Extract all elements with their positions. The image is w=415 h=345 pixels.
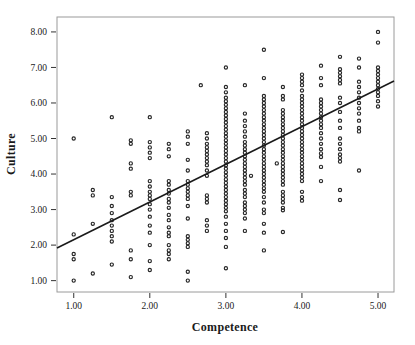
plot-frame xyxy=(57,17,394,292)
data-point xyxy=(281,172,284,175)
data-point xyxy=(338,142,341,145)
data-point xyxy=(167,231,170,234)
data-point xyxy=(205,169,208,172)
data-point xyxy=(167,197,170,200)
data-point xyxy=(376,73,379,76)
data-point xyxy=(148,141,151,144)
data-point xyxy=(129,194,132,197)
data-point xyxy=(129,142,132,145)
data-point xyxy=(376,84,379,87)
data-point xyxy=(167,235,170,238)
data-point xyxy=(281,85,284,88)
data-point xyxy=(205,142,208,145)
data-point xyxy=(224,188,227,191)
data-point xyxy=(262,116,265,119)
x-tick-label: 3.00 xyxy=(218,301,235,311)
data-point xyxy=(243,135,246,138)
data-point xyxy=(281,165,284,168)
data-point xyxy=(319,123,322,126)
data-point xyxy=(338,198,341,201)
data-point xyxy=(338,96,341,99)
data-point xyxy=(224,174,227,177)
data-point xyxy=(224,91,227,94)
data-point xyxy=(300,169,303,172)
data-point xyxy=(338,148,341,151)
data-point xyxy=(167,206,170,209)
data-point xyxy=(224,203,227,206)
data-point xyxy=(357,80,360,83)
data-point xyxy=(281,130,284,133)
data-point xyxy=(281,151,284,154)
data-point xyxy=(224,132,227,135)
data-point xyxy=(224,245,227,248)
data-point xyxy=(129,139,132,142)
data-point xyxy=(357,101,360,104)
data-point xyxy=(357,169,360,172)
y-tick-label: 5.00 xyxy=(30,134,47,144)
data-point xyxy=(376,41,379,44)
data-point xyxy=(262,123,265,126)
data-point xyxy=(262,180,265,183)
data-point xyxy=(205,197,208,200)
data-point xyxy=(262,231,265,234)
data-point xyxy=(357,66,360,69)
data-point xyxy=(224,171,227,174)
data-point xyxy=(205,149,208,152)
data-point xyxy=(357,112,360,115)
data-point xyxy=(186,142,189,145)
data-point xyxy=(262,105,265,108)
data-point xyxy=(186,217,189,220)
data-point xyxy=(167,148,170,151)
data-point xyxy=(319,155,322,158)
data-point xyxy=(224,153,227,156)
data-point xyxy=(186,135,189,138)
data-point xyxy=(224,206,227,209)
data-point xyxy=(319,64,322,67)
data-point xyxy=(110,235,113,238)
data-point xyxy=(224,181,227,184)
y-tick-label: 8.00 xyxy=(30,27,47,37)
data-point xyxy=(262,190,265,193)
data-point xyxy=(338,55,341,58)
data-point xyxy=(281,180,284,183)
data-point xyxy=(281,98,284,101)
data-point xyxy=(148,185,151,188)
data-point xyxy=(319,119,322,122)
data-point xyxy=(224,128,227,131)
data-point xyxy=(281,109,284,112)
data-point xyxy=(148,231,151,234)
data-point xyxy=(300,84,303,87)
data-point xyxy=(281,197,284,200)
data-point xyxy=(319,152,322,155)
y-axis-title: Culture xyxy=(4,133,18,175)
data-point xyxy=(205,164,208,167)
data-point xyxy=(262,196,265,199)
data-point xyxy=(338,119,341,122)
data-point xyxy=(338,188,341,191)
data-point xyxy=(186,158,189,161)
data-point xyxy=(243,148,246,151)
data-point xyxy=(300,151,303,154)
data-point xyxy=(243,162,246,165)
data-point xyxy=(262,133,265,136)
data-point xyxy=(167,180,170,183)
data-point xyxy=(243,201,246,204)
data-point xyxy=(167,142,170,145)
data-point xyxy=(300,133,303,136)
data-point xyxy=(300,190,303,193)
data-point xyxy=(281,194,284,197)
data-point xyxy=(72,137,75,140)
data-point xyxy=(243,158,246,161)
data-point xyxy=(148,157,151,160)
y-tick-label: 2.00 xyxy=(30,240,47,250)
data-point xyxy=(262,249,265,252)
data-point xyxy=(243,172,246,175)
data-point xyxy=(338,78,341,81)
data-point xyxy=(224,85,227,88)
data-point xyxy=(262,94,265,97)
data-point xyxy=(281,112,284,115)
data-point xyxy=(376,105,379,108)
data-point xyxy=(319,137,322,140)
data-point xyxy=(224,157,227,160)
data-point xyxy=(224,117,227,120)
